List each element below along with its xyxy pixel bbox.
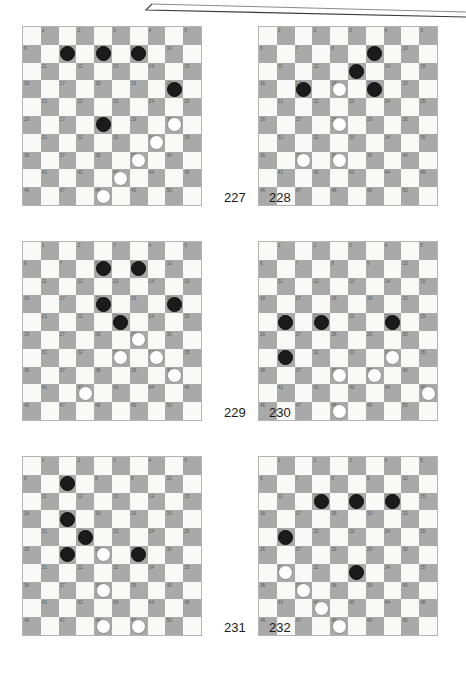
square-15[interactable]: 15 [419,493,437,511]
square-26[interactable]: 26 [23,116,41,134]
board-227[interactable]: 1234567891011121314151617181920212223242… [22,26,202,206]
square-38[interactable]: 38 [94,152,112,170]
square-31[interactable]: 31 [41,349,59,367]
square-7[interactable]: 7 [59,260,77,278]
square-20[interactable]: 20 [401,510,419,528]
square-21[interactable]: 21 [41,313,59,331]
white-piece[interactable] [96,619,111,634]
square-34[interactable]: 34 [148,349,166,367]
square-7[interactable]: 7 [59,45,77,63]
square-12[interactable]: 12 [76,493,94,511]
square-37[interactable]: 37 [295,582,313,600]
square-37[interactable]: 37 [59,367,77,385]
square-42[interactable]: 42 [76,384,94,402]
square-25[interactable]: 25 [419,313,437,331]
square-5[interactable]: 5 [183,457,201,475]
square-42[interactable]: 42 [312,384,330,402]
square-12[interactable]: 12 [76,278,94,296]
square-35[interactable]: 35 [419,564,437,582]
square-22[interactable]: 22 [312,528,330,546]
square-38[interactable]: 38 [94,367,112,385]
square-15[interactable]: 15 [183,278,201,296]
square-40[interactable]: 40 [401,367,419,385]
square-35[interactable]: 35 [183,564,201,582]
square-43[interactable]: 43 [112,384,130,402]
square-34[interactable]: 34 [148,564,166,582]
square-42[interactable]: 42 [76,169,94,187]
square-18[interactable]: 18 [94,80,112,98]
square-31[interactable]: 31 [277,134,295,152]
square-3[interactable]: 3 [348,27,366,45]
square-19[interactable]: 19 [366,80,384,98]
square-38[interactable]: 38 [330,152,348,170]
square-2[interactable]: 2 [76,242,94,260]
square-7[interactable]: 7 [59,475,77,493]
black-piece[interactable] [314,494,329,509]
square-17[interactable]: 17 [295,80,313,98]
square-15[interactable]: 15 [419,278,437,296]
square-24[interactable]: 24 [148,98,166,116]
square-35[interactable]: 35 [419,349,437,367]
square-23[interactable]: 23 [112,313,130,331]
square-48[interactable]: 48 [330,402,348,420]
square-45[interactable]: 45 [419,599,437,617]
square-25[interactable]: 25 [183,313,201,331]
square-47[interactable]: 47 [295,402,313,420]
square-21[interactable]: 21 [277,313,295,331]
square-6[interactable]: 6 [23,475,41,493]
square-32[interactable]: 32 [312,134,330,152]
square-25[interactable]: 25 [183,98,201,116]
square-2[interactable]: 2 [76,457,94,475]
square-26[interactable]: 26 [259,331,277,349]
square-28[interactable]: 28 [94,116,112,134]
square-50[interactable]: 50 [165,187,183,205]
square-24[interactable]: 24 [148,313,166,331]
black-piece[interactable] [349,494,364,509]
square-17[interactable]: 17 [295,510,313,528]
square-19[interactable]: 19 [130,510,148,528]
square-12[interactable]: 12 [76,63,94,81]
square-1[interactable]: 1 [277,242,295,260]
square-4[interactable]: 4 [384,27,402,45]
square-9[interactable]: 9 [366,475,384,493]
square-33[interactable]: 33 [348,564,366,582]
square-2[interactable]: 2 [312,27,330,45]
square-4[interactable]: 4 [148,457,166,475]
square-8[interactable]: 8 [330,475,348,493]
black-piece[interactable] [60,512,75,527]
white-piece[interactable] [113,350,128,365]
square-37[interactable]: 37 [295,367,313,385]
square-29[interactable]: 29 [366,331,384,349]
square-2[interactable]: 2 [76,27,94,45]
square-14[interactable]: 14 [384,63,402,81]
square-30[interactable]: 30 [401,331,419,349]
square-47[interactable]: 47 [59,187,77,205]
square-50[interactable]: 50 [401,617,419,635]
square-43[interactable]: 43 [348,169,366,187]
square-20[interactable]: 20 [165,510,183,528]
black-piece[interactable] [385,315,400,330]
square-29[interactable]: 29 [130,331,148,349]
square-43[interactable]: 43 [112,599,130,617]
square-34[interactable]: 34 [384,349,402,367]
square-11[interactable]: 11 [277,278,295,296]
square-31[interactable]: 31 [277,564,295,582]
square-42[interactable]: 42 [76,599,94,617]
square-1[interactable]: 1 [277,457,295,475]
square-13[interactable]: 13 [112,278,130,296]
black-piece[interactable] [131,261,146,276]
square-45[interactable]: 45 [183,599,201,617]
square-44[interactable]: 44 [148,169,166,187]
square-24[interactable]: 24 [384,528,402,546]
square-47[interactable]: 47 [295,187,313,205]
white-piece[interactable] [296,153,311,168]
square-35[interactable]: 35 [419,134,437,152]
white-piece[interactable] [332,404,347,419]
square-33[interactable]: 33 [112,564,130,582]
black-piece[interactable] [78,530,93,545]
black-piece[interactable] [96,261,111,276]
black-piece[interactable] [349,565,364,580]
square-1[interactable]: 1 [41,457,59,475]
square-27[interactable]: 27 [295,331,313,349]
black-piece[interactable] [60,46,75,61]
